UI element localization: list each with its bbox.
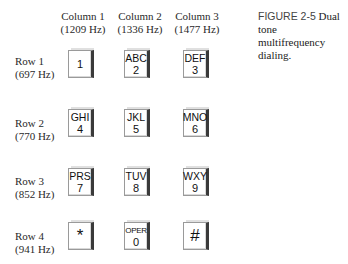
- row-label: Row 3: [15, 175, 54, 188]
- row-frequency: (852 Hz): [15, 188, 54, 201]
- key-pound[interactable]: #: [183, 222, 209, 250]
- key-digit: 1: [77, 58, 83, 70]
- key-letters: PRS: [69, 171, 91, 182]
- key-star[interactable]: *: [68, 222, 94, 250]
- key-1[interactable]: 1: [68, 50, 94, 78]
- key-letters: JKL: [127, 112, 145, 123]
- star-icon: *: [77, 227, 84, 245]
- figure-caption: FIGURE 2-5 Dual tone multifrequency dial…: [258, 10, 348, 62]
- key-7[interactable]: PRS 7: [68, 168, 94, 196]
- key-digit: 7: [77, 182, 83, 194]
- column-frequency: (1336 Hz): [114, 23, 166, 36]
- key-digit: 8: [133, 182, 139, 194]
- key-letters: ABC: [125, 53, 147, 64]
- row-frequency: (770 Hz): [15, 130, 54, 143]
- row-2-label: Row 2 (770 Hz): [15, 117, 54, 143]
- caption-text-2: multifrequency dialing.: [258, 36, 325, 61]
- row-label: Row 2: [15, 117, 54, 130]
- key-5[interactable]: JKL 5: [124, 109, 150, 137]
- row-1-label: Row 1 (697 Hz): [15, 55, 54, 81]
- column-2-header: Column 2 (1336 Hz): [114, 10, 166, 36]
- key-digit: 4: [77, 123, 83, 135]
- key-0[interactable]: OPER 0: [124, 222, 150, 250]
- key-digit: 3: [192, 64, 198, 76]
- key-digit: 9: [192, 182, 198, 194]
- row-4-label: Row 4 (941 Hz): [15, 230, 54, 256]
- row-frequency: (941 Hz): [15, 243, 54, 256]
- key-6[interactable]: MNO 6: [183, 109, 209, 137]
- column-label: Column 1: [58, 10, 108, 23]
- key-4[interactable]: GHI 4: [68, 109, 94, 137]
- key-digit: 0: [133, 236, 139, 248]
- key-letters: MNO: [183, 112, 208, 123]
- key-letters: GHI: [71, 112, 90, 123]
- key-9[interactable]: WXY 9: [183, 168, 209, 196]
- column-frequency: (1477 Hz): [171, 23, 223, 36]
- key-letters: TUV: [126, 171, 147, 182]
- key-8[interactable]: TUV 8: [124, 168, 150, 196]
- row-label: Row 1: [15, 55, 54, 68]
- key-letters: WXY: [183, 171, 207, 182]
- key-2[interactable]: ABC 2: [124, 50, 150, 78]
- key-letters: OPER: [125, 225, 146, 236]
- column-label: Column 3: [171, 10, 223, 23]
- column-label: Column 2: [114, 10, 166, 23]
- column-1-header: Column 1 (1209 Hz): [58, 10, 108, 36]
- row-frequency: (697 Hz): [15, 68, 54, 81]
- key-digit: 5: [133, 123, 139, 135]
- figure-label: FIGURE 2-5: [258, 10, 316, 22]
- row-label: Row 4: [15, 230, 54, 243]
- key-digit: 2: [133, 64, 139, 76]
- row-3-label: Row 3 (852 Hz): [15, 175, 54, 201]
- key-letters: DEF: [185, 53, 206, 64]
- column-3-header: Column 3 (1477 Hz): [171, 10, 223, 36]
- key-digit: 6: [192, 123, 198, 135]
- pound-icon: #: [190, 227, 199, 245]
- key-3[interactable]: DEF 3: [183, 50, 209, 78]
- column-frequency: (1209 Hz): [58, 23, 108, 36]
